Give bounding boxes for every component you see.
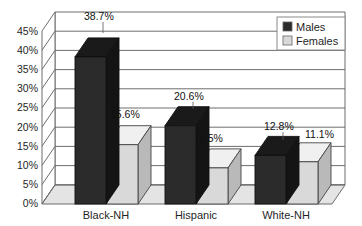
y-tick-15: 15% [17,140,38,152]
y-tick-5: 5% [23,178,38,190]
bar-front-face [255,155,286,204]
y-tick-30: 30% [17,82,38,94]
data-label-white-males: 12.8% [264,120,294,132]
chart-canvas: 38.7% 15.6% 20.6% 9.5% 12.8% 11.1% 45% 4… [0,0,362,226]
data-label-black-females: 15.6% [110,108,140,120]
legend[interactable]: Males Females [277,17,345,50]
legend-swatch-females-icon [283,36,292,45]
y-tick-40: 40% [17,44,38,56]
y-tick-45: 45% [17,25,38,37]
data-label-hispanic-females: 9.5% [199,132,223,144]
x-axis-category-labels: Black-NH Hispanic White-NH [83,209,310,221]
y-tick-35: 35% [17,63,38,75]
data-label-white-females: 11.1% [305,128,334,140]
legend-swatch-males-icon [283,22,292,31]
y-tick-25: 25% [17,101,38,113]
data-label-hispanic-males: 20.6% [174,90,204,102]
legend-item-males[interactable]: Males [283,21,326,33]
x-category-white-nh: White-NH [262,209,310,221]
x-category-black-nh: Black-NH [83,209,130,221]
y-axis-tick-labels: 45% 40% 35% 30% 25% 20% 15% 10% 5% 0% [17,25,38,210]
bar-side-face [106,38,119,204]
bar-group-white-nh [255,136,331,204]
legend-label-females: Females [296,35,339,47]
bar-males-hispanic[interactable] [165,107,209,204]
bar-front-face [75,57,106,204]
bar-chart: 38.7% 15.6% 20.6% 9.5% 12.8% 11.1% 45% 4… [0,0,362,226]
bar-males-black-nh[interactable] [75,38,119,204]
data-label-black-males: 38.7% [84,10,114,22]
y-tick-20: 20% [17,121,38,133]
bar-males-white-nh[interactable] [255,136,299,204]
x-category-hispanic: Hispanic [175,209,218,221]
legend-item-females[interactable]: Females [283,35,339,47]
legend-label-males: Males [296,21,326,33]
y-tick-0: 0% [23,197,38,209]
y-tick-10: 10% [17,159,38,171]
bar-front-face [165,126,196,204]
